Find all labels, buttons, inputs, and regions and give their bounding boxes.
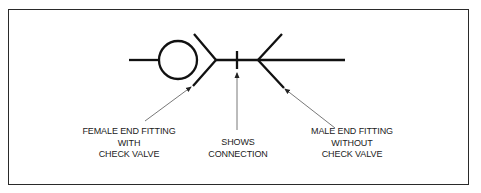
male-leader-arrow-icon xyxy=(285,89,335,128)
female-label-line-1: FEMALE END FITTING xyxy=(73,126,185,138)
connection-label: SHOWS CONNECTION xyxy=(196,137,280,160)
male-label-line-2: WITHOUT xyxy=(300,138,404,150)
male-label-line-3: CHECK VALVE xyxy=(300,149,404,161)
male-label-line-1: MALE END FITTING xyxy=(300,126,404,138)
female-fitting-label: FEMALE END FITTING WITH CHECK VALVE xyxy=(73,126,185,161)
female-label-line-3: CHECK VALVE xyxy=(73,149,185,161)
leader-arrows xyxy=(145,73,335,130)
check-valve-circle-icon xyxy=(159,41,197,79)
female-label-line-2: WITH xyxy=(73,138,185,150)
quick-disconnect-symbol xyxy=(0,0,481,193)
connection-label-line-2: CONNECTION xyxy=(196,149,280,161)
connection-label-line-1: SHOWS xyxy=(196,137,280,149)
female-leader-arrow-icon xyxy=(145,87,191,121)
male-fitting-label: MALE END FITTING WITHOUT CHECK VALVE xyxy=(300,126,404,161)
